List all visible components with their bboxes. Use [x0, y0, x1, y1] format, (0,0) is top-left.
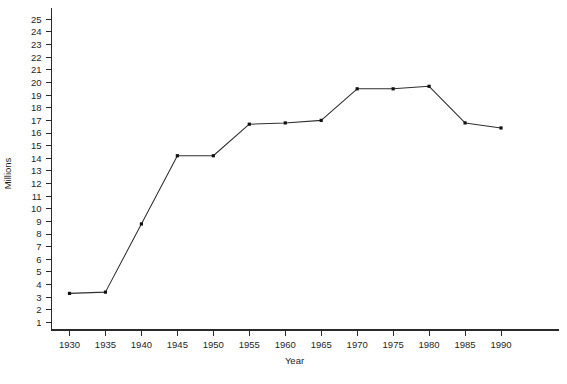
y-axis-tick-label: 14 [31, 153, 42, 164]
y-axis-tick-label: 22 [31, 52, 42, 63]
y-axis-tick-label: 18 [31, 102, 42, 113]
x-axis-tick-label: 1950 [203, 339, 224, 350]
data-point-marker [284, 121, 287, 124]
data-point-marker [499, 126, 502, 129]
x-axis-tick-labels: 1930193519401945195019551960196519701975… [59, 339, 512, 350]
y-axis-tick-label: 16 [31, 127, 42, 138]
y-axis-tick-label: 1 [36, 317, 41, 328]
axis-spines [52, 8, 560, 330]
y-axis-tick-label: 20 [31, 77, 42, 88]
y-axis-tick-labels: 1234567891011121314151617181920212223242… [31, 14, 42, 328]
y-axis-tick-label: 7 [36, 241, 41, 252]
y-axis-tick-label: 23 [31, 39, 42, 50]
y-axis-tick-label: 5 [36, 266, 41, 277]
x-axis-tick-label: 1930 [59, 339, 80, 350]
y-axis-tick-label: 19 [31, 90, 42, 101]
data-point-marker [248, 123, 251, 126]
data-point-marker [140, 222, 143, 225]
x-axis-tick-label: 1965 [311, 339, 332, 350]
y-axis-tick-label: 11 [32, 191, 42, 202]
y-axis-tick-label: 3 [36, 292, 41, 303]
x-axis-tick-label: 1945 [167, 339, 188, 350]
line-chart-plot: 1234567891011121314151617181920212223242… [0, 0, 567, 384]
x-axis-title: Year [0, 355, 567, 366]
x-axis-title-text: Year [285, 355, 304, 366]
data-point-marker [176, 154, 179, 157]
x-axis-tick-label: 1940 [131, 339, 152, 350]
data-point-marker [392, 87, 395, 90]
x-axis-tick-label: 1935 [95, 339, 116, 350]
x-axis-tick-label: 1955 [239, 339, 260, 350]
data-point-marker [104, 291, 107, 294]
data-point-marker [463, 121, 466, 124]
data-point-marker [356, 87, 359, 90]
y-axis-tick-label: 12 [31, 178, 42, 189]
y-axis-tick-label: 9 [36, 216, 41, 227]
scan-artifact-bottom [4, 372, 154, 380]
x-axis-tick-label: 1960 [275, 339, 296, 350]
y-axis-tick-label: 2 [36, 304, 41, 315]
data-series-markers [68, 85, 503, 295]
data-series-line [69, 86, 501, 293]
x-axis-tick-label: 1970 [347, 339, 368, 350]
y-axis-tick-label: 8 [36, 228, 41, 239]
chart-figure: Millions 1234567891011121314151617181920… [0, 0, 567, 384]
data-point-marker [427, 85, 430, 88]
x-axis-tick-label: 1985 [454, 339, 475, 350]
y-axis-tick-marks [46, 19, 52, 322]
y-axis-tick-label: 25 [31, 14, 42, 25]
y-axis-tick-label: 10 [31, 203, 42, 214]
y-axis-tick-label: 15 [31, 140, 42, 151]
x-axis-tick-label: 1990 [490, 339, 511, 350]
y-axis-tick-label: 4 [36, 279, 41, 290]
data-point-marker [320, 119, 323, 122]
y-axis-tick-label: 21 [31, 64, 42, 75]
y-axis-tick-label: 13 [31, 165, 42, 176]
data-point-marker [68, 292, 71, 295]
x-axis-tick-label: 1980 [419, 339, 440, 350]
y-axis-tick-label: 24 [31, 26, 42, 37]
x-axis-tick-marks [69, 330, 501, 336]
data-point-marker [212, 154, 215, 157]
y-axis-tick-label: 6 [36, 254, 41, 265]
y-axis-tick-label: 17 [31, 115, 42, 126]
x-axis-tick-label: 1975 [383, 339, 404, 350]
